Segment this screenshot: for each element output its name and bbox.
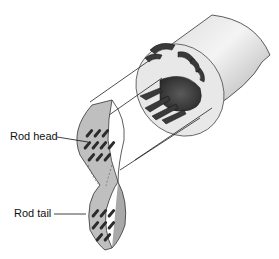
rod-head-label: Rod head <box>10 131 58 142</box>
rod-tail-label: Rod tail <box>14 208 51 219</box>
